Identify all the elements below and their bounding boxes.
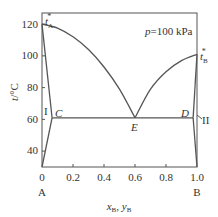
x-axis-label: xB, yB (106, 200, 132, 214)
y-tick-label-80: 80 (27, 81, 39, 93)
region-label-1: I (44, 105, 48, 117)
x-tick-label-0.6: 0.6 (128, 171, 142, 183)
x-tick-label-0.4: 0.4 (97, 171, 111, 183)
phase-diagram: 120 100 80 60 40 0 0.2 0.4 0.6 0.8 1.0 A… (0, 0, 218, 217)
endpoint-label-a: A (38, 186, 46, 198)
solvus-A-curve (42, 118, 52, 167)
x-tick-label-0.2: 0.2 (66, 171, 80, 183)
point-label-tB-star: tB* (200, 47, 208, 65)
y-tick-label-40: 40 (27, 144, 39, 156)
solidus-A-curve (42, 24, 52, 118)
point-label-tA-star: tA* (45, 12, 53, 30)
x-tick-label-0: 0 (39, 171, 45, 183)
point-label-e: E (130, 121, 138, 133)
y-axis-label: t/°C (8, 83, 20, 101)
phase-curves (42, 24, 197, 167)
point-label-d: D (180, 107, 189, 119)
y-tick-label-100: 100 (22, 49, 39, 61)
solidus-B-curve (193, 54, 197, 118)
y-tick-label-120: 120 (22, 18, 39, 30)
x-tick-label-0.8: 0.8 (159, 171, 173, 183)
y-tick-label-60: 60 (27, 113, 39, 125)
liquidus-A-curve (42, 24, 135, 118)
endpoint-label-b: B (193, 186, 200, 198)
solvus-B-curve (193, 118, 197, 167)
x-tick-label-1.0: 1.0 (190, 171, 204, 183)
pressure-annotation: p=100 kPa (144, 25, 193, 37)
region-label-2: II (202, 114, 210, 126)
labels: 120 100 80 60 40 0 0.2 0.4 0.6 0.8 1.0 A… (8, 12, 210, 214)
point-label-c: C (55, 107, 63, 119)
